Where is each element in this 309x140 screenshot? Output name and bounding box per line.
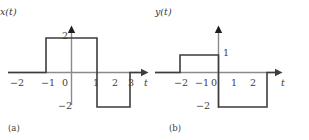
panel-a-caption: (a) bbox=[8, 124, 20, 133]
panel-a-x-axis-label: t bbox=[144, 78, 148, 88]
y-axis-arrowhead bbox=[215, 26, 222, 34]
panel-a-tick-neg1: −1 bbox=[41, 78, 55, 88]
chart-panel-a: x(t) 2 −2 −2 −1 0 1 2 3 t (a) bbox=[0, 0, 155, 140]
x-axis-arrowhead bbox=[141, 69, 149, 76]
panel-a-tick-3: 3 bbox=[128, 78, 134, 88]
panel-a-level-neg2-label: −2 bbox=[58, 101, 72, 111]
panel-a-tick-neg2: −2 bbox=[10, 78, 24, 88]
panel-b-tick-neg2: −2 bbox=[174, 78, 188, 88]
panel-a-tick-0: 0 bbox=[62, 78, 68, 88]
panel-b-tick-1: 1 bbox=[231, 78, 237, 88]
panel-a-level-2-label: 2 bbox=[62, 31, 68, 41]
panel-b-plot bbox=[155, 0, 309, 140]
panel-b-level-1-label: 1 bbox=[223, 48, 229, 58]
panel-b-tick-neg1: −1 bbox=[195, 78, 209, 88]
panel-a-tick-1: 1 bbox=[93, 78, 99, 88]
chart-panel-b: y(t) 1 −2 −2 −1 0 1 2 t (b) bbox=[155, 0, 309, 140]
y-axis-arrowhead bbox=[68, 26, 75, 34]
panel-a-plot bbox=[0, 0, 155, 140]
panel-b-tick-0: 0 bbox=[211, 78, 217, 88]
panel-a-tick-2: 2 bbox=[112, 78, 118, 88]
panel-b-x-axis-label: t bbox=[281, 78, 285, 88]
panel-b-level-neg2-label: −2 bbox=[196, 101, 210, 111]
x-axis-arrowhead bbox=[275, 69, 283, 76]
panel-b-caption: (b) bbox=[169, 124, 181, 133]
signal-figure: x(t) 2 −2 −2 −1 0 1 2 3 t (a) y(t) 1 −2 … bbox=[0, 0, 309, 140]
panel-b-tick-2: 2 bbox=[250, 78, 256, 88]
